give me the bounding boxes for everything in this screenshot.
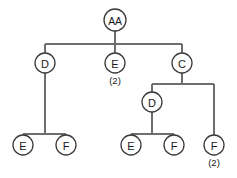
pedigree-tree-diagram: AADE(2)CDEFEFF(2) — [0, 0, 237, 178]
node-label: F — [63, 140, 70, 152]
node-label: F — [171, 140, 178, 152]
tree-canvas: AADE(2)CDEFEFF(2) — [0, 0, 237, 178]
tree-node-aa[interactable]: AA — [104, 9, 126, 31]
tree-node-e[interactable]: E — [13, 135, 33, 155]
tree-node-f[interactable]: F — [56, 135, 76, 155]
tree-node-d[interactable]: D — [142, 92, 162, 112]
tree-node-f[interactable]: F(2) — [204, 135, 224, 168]
node-label: E — [127, 140, 134, 152]
tree-node-f[interactable]: F — [164, 135, 184, 155]
node-label: E — [111, 58, 118, 70]
node-count-label: (2) — [208, 157, 220, 168]
node-label: AA — [108, 15, 122, 27]
tree-node-d[interactable]: D — [35, 53, 55, 73]
node-label: D — [41, 58, 49, 70]
node-label: D — [148, 97, 156, 109]
node-label: F — [211, 140, 218, 152]
tree-node-e[interactable]: E — [121, 135, 141, 155]
tree-node-c[interactable]: C — [172, 53, 192, 73]
node-count-label: (2) — [109, 75, 121, 86]
node-label: E — [19, 140, 26, 152]
tree-node-e[interactable]: E(2) — [105, 53, 125, 86]
node-label: C — [178, 58, 186, 70]
